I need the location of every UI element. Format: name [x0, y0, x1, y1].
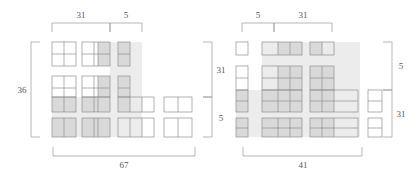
left-diagram-group [31, 23, 212, 156]
right-diagram-group [236, 23, 392, 156]
left-dim-right-5: 5 [219, 114, 224, 123]
right-dim-top-31: 31 [299, 11, 308, 20]
right-dim-right-31: 31 [397, 110, 406, 119]
right-dim-top-5: 5 [256, 11, 261, 20]
right-dim-bottom-41: 41 [299, 161, 308, 170]
left-dim-right-31: 31 [217, 66, 226, 75]
packing-diagram-svg [0, 0, 415, 180]
figure-container: 31 5 36 31 5 67 5 31 5 31 41 [0, 0, 415, 180]
left-dim-top-31: 31 [77, 11, 86, 20]
left-dim-left-36: 36 [18, 86, 27, 95]
right-dim-right-5: 5 [399, 62, 404, 71]
diagram-canvas: 31 5 36 31 5 67 5 31 5 31 41 [0, 0, 415, 180]
left-dim-bottom-67: 67 [120, 161, 129, 170]
left-dim-top-5: 5 [124, 11, 129, 20]
